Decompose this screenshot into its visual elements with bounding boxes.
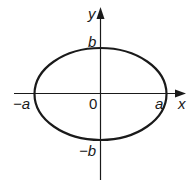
y-axis-arrow-icon bbox=[97, 7, 105, 19]
x-axis-label: x bbox=[177, 95, 186, 112]
neg-b-label: −b bbox=[79, 142, 96, 159]
y-axis-label: y bbox=[87, 5, 97, 22]
origin-label: 0 bbox=[89, 95, 97, 112]
neg-a-label: −a bbox=[13, 95, 30, 112]
pos-b-label: b bbox=[88, 33, 96, 50]
ellipse-diagram: y x 0 b −b −a a bbox=[0, 0, 194, 188]
pos-a-label: a bbox=[155, 95, 163, 112]
